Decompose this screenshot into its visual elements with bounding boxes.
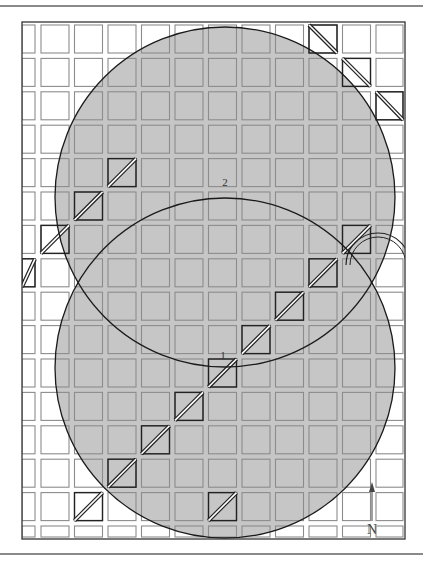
circle-label-1: 1	[220, 349, 226, 361]
north-arrow-icon	[369, 482, 375, 521]
coverage-circles	[55, 27, 395, 538]
circle-label-2: 2	[222, 176, 228, 188]
grid-diagram: 2 1 N	[0, 0, 423, 561]
north-label: N	[367, 522, 377, 537]
